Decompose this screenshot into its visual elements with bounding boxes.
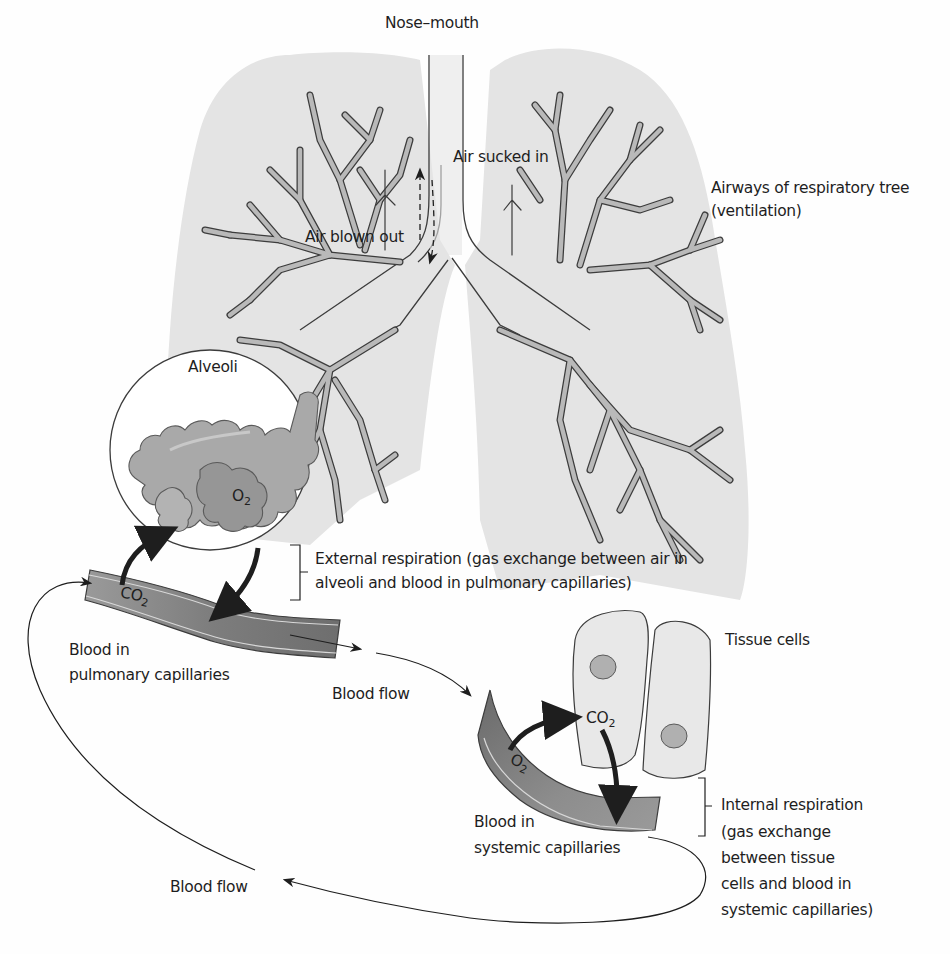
o2-symbol: O	[232, 487, 244, 505]
label-air-sucked-in: Air sucked in	[453, 147, 549, 168]
label-systemic-line1: Blood in	[474, 812, 534, 833]
label-pulmonary-line2: pulmonary capillaries	[69, 665, 230, 686]
subscript: 2	[244, 495, 251, 508]
label-alveoli: Alveoli	[188, 357, 238, 378]
respiration-diagram: Nose–mouth Air sucked in Air blown out A…	[0, 0, 950, 954]
co2-symbol: CO	[586, 709, 608, 727]
label-internal-line3: between tissue	[721, 848, 835, 869]
label-nose-mouth: Nose–mouth	[385, 13, 479, 34]
label-internal-line4: cells and blood in	[721, 874, 851, 895]
label-co2-tissue: CO2	[586, 708, 615, 730]
label-external-line2: alveoli and blood in pulmonary capillari…	[315, 573, 632, 594]
label-pulmonary-line1: Blood in	[69, 640, 129, 661]
label-tissue-cells: Tissue cells	[725, 630, 810, 651]
label-systemic-line2: systemic capillaries	[474, 838, 620, 859]
label-air-blown-out: Air blown out	[305, 227, 404, 248]
label-o2-alveoli: O2	[232, 486, 251, 508]
label-internal-line2: (gas exchange	[721, 822, 831, 843]
subscript: 2	[608, 717, 615, 730]
external-respiration-bracket	[290, 545, 308, 600]
label-internal-line5: systemic capillaries)	[721, 900, 873, 921]
internal-respiration-bracket	[698, 778, 712, 836]
label-external-line1: External respiration (gas exchange betwe…	[315, 549, 688, 570]
label-airways-line2: (ventilation)	[711, 201, 802, 222]
label-airways-line1: Airways of respiratory tree	[711, 178, 909, 199]
label-blood-flow-bottom: Blood flow	[170, 877, 248, 898]
right-lung	[465, 49, 749, 600]
label-internal-line1: Internal respiration	[721, 795, 863, 816]
tissue-cells	[573, 611, 711, 779]
label-blood-flow-top: Blood flow	[332, 684, 410, 705]
